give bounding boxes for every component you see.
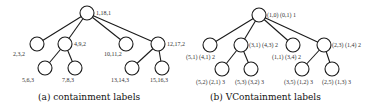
tree-a-node [68, 61, 82, 75]
tree-a: 1,18,1 2,3,2 4,9,2 10,11,2 12,17,2 5,6,3… [13, 6, 185, 102]
node-label: 2,3,2 [13, 51, 25, 57]
node-label: (5,1) (4,1) 2 [186, 54, 215, 61]
node-label: 13,14,3 [111, 77, 129, 83]
tree-b-node [325, 62, 339, 76]
node-label: (3,5) (1,2) 3 [284, 79, 313, 86]
tree-a-root-node [80, 6, 94, 20]
node-label: (1,0) (0,1) 1 [267, 12, 296, 19]
containment-figure: 1,18,1 2,3,2 4,9,2 10,11,2 12,17,2 5,6,3… [0, 0, 376, 111]
node-label: (2,3) (1,4) 2 [332, 42, 361, 49]
tree-b-root-node [252, 8, 266, 22]
tree-a-node [30, 37, 44, 51]
node-label: 12,17,2 [167, 41, 185, 47]
node-label: 15,16,3 [150, 77, 168, 83]
tree-a-node [151, 37, 165, 51]
tree-b-node [295, 62, 309, 76]
tree-b-node [317, 38, 331, 52]
tree-b-node [286, 38, 300, 52]
tree-a-node [125, 61, 139, 75]
node-label: 5,6,3 [22, 77, 34, 83]
node-label: 4,9,2 [74, 41, 86, 47]
tree-b-node [244, 62, 258, 76]
tree-a-node [38, 61, 52, 75]
tree-b: (1,0) (0,1) 1 (5,1) (4,1) 2 (3,1) (4,3) … [186, 8, 361, 102]
caption-a: (a) containment labels [38, 92, 141, 102]
tree-b-node [234, 38, 248, 52]
tree-a-node [58, 37, 72, 51]
node-label: (5,2) (2,1) 3 [196, 79, 225, 86]
caption-b: (b) VContainment labels [210, 92, 321, 102]
node-label: (3,1) (4,3) 2 [249, 42, 278, 49]
tree-b-node [203, 38, 217, 52]
node-label: 10,11,2 [104, 51, 122, 57]
node-label: 7,8,3 [62, 77, 74, 83]
node-label: (5,3) (3,2) 3 [235, 79, 264, 86]
tree-a-node [119, 37, 133, 51]
node-label: (1,1) (3,4) 2 [272, 54, 301, 61]
tree-a-node [155, 61, 169, 75]
node-label: (2,5) (1,3) 3 [322, 79, 351, 86]
tree-b-node [215, 62, 229, 76]
node-label: 1,18,1 [96, 10, 111, 16]
